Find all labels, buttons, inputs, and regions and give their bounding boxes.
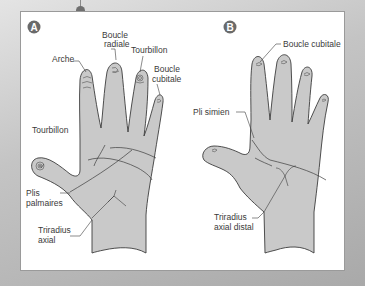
label-triradius-distal-1: Triradius <box>214 212 247 222</box>
badge-b-letter: B <box>226 22 233 33</box>
label-boucle-cubitale-1: Boucle <box>154 64 180 74</box>
label-boucle-radiale-2: radiale <box>104 39 130 49</box>
label-arche: Arche <box>52 54 74 64</box>
badge-a-letter: A <box>30 22 37 33</box>
label-plis-1: Plis <box>26 188 40 198</box>
label-boucle-cubitale-2: cubitale <box>152 74 182 84</box>
label-plis-2: palmaires <box>26 198 63 208</box>
palm-diagram: Boucle radiale Arche Tourbillon Boucle c… <box>0 0 365 286</box>
label-triradius-axial-2: axial <box>38 235 56 245</box>
label-triradius-axial-1: Triradius <box>38 225 71 235</box>
label-tourbillon-finger: Tourbillon <box>131 45 168 55</box>
hand-b: Boucle cubitale Pli simien Triradius axi… <box>193 21 341 254</box>
label-pli-simien: Pli simien <box>193 107 230 117</box>
label-tourbillon-thumb: Tourbillon <box>32 125 69 135</box>
label-boucle-cubitale-b: Boucle cubitale <box>283 39 341 49</box>
label-triradius-distal-2: axial distal <box>214 222 254 232</box>
hand-a: Boucle radiale Arche Tourbillon Boucle c… <box>26 21 182 254</box>
